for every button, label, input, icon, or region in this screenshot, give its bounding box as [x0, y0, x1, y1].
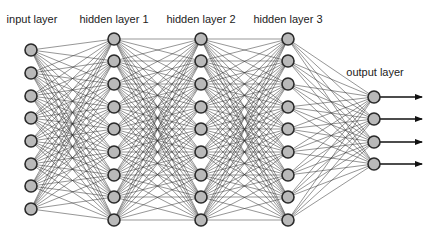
neurons: [25, 33, 380, 226]
connection-edge: [31, 39, 114, 118]
connection-edge: [31, 61, 114, 209]
neuron-node: [108, 169, 120, 181]
neuron-node: [195, 55, 207, 67]
neuron-node: [195, 214, 207, 226]
neuron-node: [108, 55, 120, 67]
neuron-node: [368, 91, 380, 103]
neuron-node: [282, 169, 294, 181]
connection-edge: [31, 84, 114, 209]
neural-network-diagram: input layerhidden layer 1hidden layer 2h…: [0, 0, 438, 239]
neuron-node: [25, 203, 37, 215]
connection-edge: [31, 39, 114, 96]
neuron-node: [282, 55, 294, 67]
connection-edge: [31, 197, 114, 209]
neuron-node: [108, 123, 120, 135]
neuron-node: [108, 101, 120, 113]
connection-edge: [31, 61, 114, 118]
neuron-node: [25, 135, 37, 147]
neuron-node: [195, 169, 207, 181]
neuron-node: [368, 136, 380, 148]
neuron-node: [108, 146, 120, 158]
connection-edge: [31, 39, 114, 50]
neuron-node: [25, 67, 37, 79]
neuron-node: [195, 101, 207, 113]
neuron-node: [195, 123, 207, 135]
neuron-node: [25, 112, 37, 124]
neuron-node: [282, 123, 294, 135]
connection-edge: [31, 164, 114, 175]
connection-edge: [31, 152, 114, 209]
neuron-node: [25, 158, 37, 170]
layer-label: hidden layer 3: [253, 13, 322, 25]
layer-label: input layer: [7, 13, 58, 25]
connection-edge: [31, 129, 114, 186]
neuron-node: [25, 90, 37, 102]
neuron-node: [282, 101, 294, 113]
connection-edge: [31, 61, 114, 73]
neuron-node: [195, 146, 207, 158]
connection-edge: [31, 107, 114, 209]
neuron-node: [108, 33, 120, 45]
connection-edge: [31, 39, 114, 141]
neuron-node: [108, 214, 120, 226]
connection-edge: [288, 84, 374, 97]
neuron-node: [108, 191, 120, 203]
neuron-node: [282, 146, 294, 158]
layer-label: hidden layer 2: [166, 13, 235, 25]
layer-label: hidden layer 1: [79, 13, 148, 25]
connection-edge: [31, 39, 114, 73]
neuron-node: [195, 78, 207, 90]
neuron-node: [25, 44, 37, 56]
neuron-node: [108, 78, 120, 90]
network-graph: [0, 0, 438, 239]
neuron-node: [195, 191, 207, 203]
connection-edge: [31, 186, 114, 197]
neuron-node: [368, 158, 380, 170]
neuron-node: [25, 180, 37, 192]
neuron-node: [282, 214, 294, 226]
output-arrows: [380, 97, 422, 164]
neuron-node: [368, 113, 380, 125]
neuron-node: [282, 191, 294, 203]
neuron-node: [282, 78, 294, 90]
connection-edge: [31, 39, 114, 164]
connection-edge: [31, 209, 114, 220]
neuron-node: [282, 33, 294, 45]
connection-edge: [31, 39, 114, 186]
layer-label: output layer: [346, 66, 403, 78]
neuron-node: [195, 33, 207, 45]
connection-edge: [31, 50, 114, 61]
